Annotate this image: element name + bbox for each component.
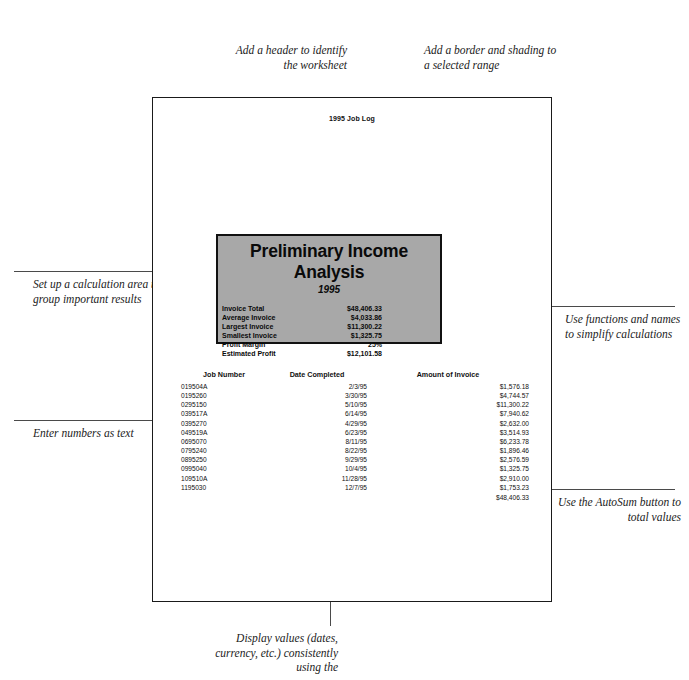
cell-date-completed: 6/23/95 — [267, 428, 367, 437]
cell-job-number: 0895250 — [181, 455, 267, 464]
cell-job-number: 0995040 — [181, 464, 267, 473]
cell-job-number: 1195030 — [181, 483, 267, 492]
cell-amount-of-invoice: $1,576.18 — [367, 382, 529, 391]
cell-date-completed: 5/10/95 — [267, 400, 367, 409]
cell-date-completed: 11/28/95 — [267, 474, 367, 483]
cell-amount-of-invoice: $1,325.75 — [367, 464, 529, 473]
calculation-area-subtitle: 1995 — [218, 284, 440, 295]
column-header-date-completed[interactable]: Date Completed — [267, 370, 367, 382]
calculation-row: Estimated Profit$12,101.58 — [222, 349, 434, 358]
table-row[interactable]: 01952603/30/95$4,744.57 — [181, 391, 529, 400]
calculation-row-value: $48,406.33 — [294, 304, 434, 313]
total-spacer-job — [181, 492, 267, 502]
table-row[interactable]: 07952408/22/95$1,896.46 — [181, 446, 529, 455]
calculation-row: Smallest Invoice$1,325.75 — [222, 331, 434, 340]
worksheet-page: 1995 Job Log Preliminary Income Analysis… — [152, 97, 552, 602]
calculation-row-label: Estimated Profit — [222, 349, 276, 358]
cell-date-completed: 3/30/95 — [267, 391, 367, 400]
calculation-row-value: $11,300.22 — [294, 322, 434, 331]
cell-amount-of-invoice: $2,910.00 — [367, 474, 529, 483]
calculation-row-label: Average Invoice — [222, 313, 275, 322]
cell-date-completed: 8/22/95 — [267, 446, 367, 455]
calculation-row: Profit Margin25% — [222, 340, 434, 349]
cell-date-completed: 10/4/95 — [267, 464, 367, 473]
calculation-row-label: Invoice Total — [222, 304, 264, 313]
cell-date-completed: 4/29/95 — [267, 419, 367, 428]
calculation-row-value: $12,101.58 — [294, 349, 434, 358]
callout-functions-names: Use functions and names to simplify calc… — [565, 312, 689, 341]
cell-job-number: 0295150 — [181, 400, 267, 409]
cell-date-completed: 6/14/95 — [267, 409, 367, 418]
calculation-area-rows: Invoice Total$48,406.33Average Invoice$4… — [218, 304, 440, 359]
table-header-row: Job Number Date Completed Amount of Invo… — [181, 370, 529, 382]
cell-amount-of-invoice: $6,233.78 — [367, 437, 529, 446]
cell-job-number: 109510A — [181, 474, 267, 483]
column-header-amount-of-invoice[interactable]: Amount of Invoice — [367, 370, 529, 382]
cell-job-number: 0795240 — [181, 446, 267, 455]
cell-date-completed: 2/3/95 — [267, 382, 367, 391]
column-header-job-number[interactable]: Job Number — [181, 370, 267, 382]
cell-amount-of-invoice: $2,632.00 — [367, 419, 529, 428]
cell-date-completed: 8/11/95 — [267, 437, 367, 446]
cell-job-number: 0195260 — [181, 391, 267, 400]
calculation-row-value: $1,325.75 — [294, 331, 434, 340]
calculation-row-value: $4,033.86 — [294, 313, 434, 322]
cell-amount-of-invoice: $4,744.57 — [367, 391, 529, 400]
cell-job-number: 049519A — [181, 428, 267, 437]
table-total-row: $48,406.33 — [181, 492, 529, 502]
calculation-row: Largest Invoice$11,300.22 — [222, 322, 434, 331]
table-row[interactable]: 06950708/11/95$6,233.78 — [181, 437, 529, 446]
table-row[interactable]: 02951505/10/95$11,300.22 — [181, 400, 529, 409]
table-row[interactable]: 019504A2/3/95$1,576.18 — [181, 382, 529, 391]
cell-job-number: 0695070 — [181, 437, 267, 446]
cell-date-completed: 12/7/95 — [267, 483, 367, 492]
cell-date-completed: 9/29/95 — [267, 455, 367, 464]
calculation-row: Average Invoice$4,033.86 — [222, 313, 434, 322]
cell-job-number: 0395270 — [181, 419, 267, 428]
table-row[interactable]: 119503012/7/95$1,753.23 — [181, 483, 529, 492]
cell-amount-of-invoice: $1,896.46 — [367, 446, 529, 455]
callout-autosum: Use the AutoSum button to total values — [555, 495, 681, 524]
invoice-total-value: $48,406.33 — [367, 492, 529, 502]
cell-amount-of-invoice: $7,940.62 — [367, 409, 529, 418]
job-log-table: Job Number Date Completed Amount of Invo… — [181, 370, 529, 502]
cell-amount-of-invoice: $11,300.22 — [367, 400, 529, 409]
calculation-area-title: Preliminary Income Analysis — [218, 241, 440, 283]
callout-border-shading: Add a border and shading to a selected r… — [424, 43, 564, 72]
table-row[interactable]: 03952704/29/95$2,632.00 — [181, 419, 529, 428]
calculation-row-label: Profit Margin — [222, 340, 265, 349]
cell-job-number: 019504A — [181, 382, 267, 391]
total-spacer-date — [267, 492, 367, 502]
callout-display-values: Display values (dates, currency, etc.) c… — [196, 631, 338, 675]
calculation-area-block[interactable]: Preliminary Income Analysis 1995 Invoice… — [216, 234, 442, 344]
calculation-row-value: 25% — [294, 340, 434, 349]
callout-add-header: Add a header to identify the worksheet — [235, 43, 347, 72]
calculation-row-label: Largest Invoice — [222, 322, 273, 331]
table-row[interactable]: 039517A6/14/95$7,940.62 — [181, 409, 529, 418]
table-row[interactable]: 049519A6/23/95$3,514.93 — [181, 428, 529, 437]
leader-line-display-values — [330, 602, 331, 626]
table-row[interactable]: 109510A11/28/95$2,910.00 — [181, 474, 529, 483]
worksheet-header-text: 1995 Job Log — [153, 115, 551, 122]
cell-amount-of-invoice: $1,753.23 — [367, 483, 529, 492]
cell-amount-of-invoice: $2,576.59 — [367, 455, 529, 464]
cell-job-number: 039517A — [181, 409, 267, 418]
calculation-row: Invoice Total$48,406.33 — [222, 304, 434, 313]
cell-amount-of-invoice: $3,514.93 — [367, 428, 529, 437]
job-log-table-body: 019504A2/3/95$1,576.1801952603/30/95$4,7… — [181, 382, 529, 492]
table-row[interactable]: 08952509/29/95$2,576.59 — [181, 455, 529, 464]
table-row[interactable]: 099504010/4/95$1,325.75 — [181, 464, 529, 473]
calculation-row-label: Smallest Invoice — [222, 331, 277, 340]
